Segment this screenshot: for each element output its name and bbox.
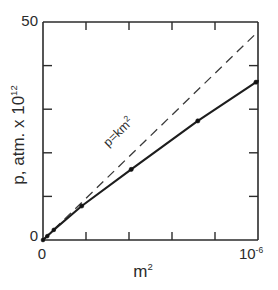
x-axis-origin-label: 0: [38, 245, 46, 262]
series-ideal-dashed: [43, 32, 258, 240]
x-axis-ticks: [86, 232, 215, 240]
ideal-law-annotation: p=km2: [99, 113, 136, 149]
axis-frame: [43, 22, 258, 240]
x-axis-max-label: 10-6: [239, 245, 264, 262]
data-point: [41, 238, 45, 242]
x-axis-max-label-base: 10: [239, 245, 256, 262]
y-axis-ticks: [43, 66, 52, 197]
data-point-markers: [41, 80, 258, 242]
x-axis-title: m2: [133, 261, 152, 281]
x-axis-title-base: m: [133, 262, 147, 281]
y-axis-title-exponent: 12: [8, 85, 19, 96]
data-point: [129, 167, 133, 171]
data-point: [52, 228, 56, 232]
y-axis-max-label: 50: [21, 12, 38, 29]
data-point: [254, 80, 258, 84]
y-axis-title-base: p, atm. x 10: [9, 96, 28, 185]
plot-canvas: 50 0 0 10-6 m2 p, atm. x 1012 p=km2: [0, 0, 278, 290]
data-point: [80, 204, 84, 208]
chart-figure: 50 0 0 10-6 m2 p, atm. x 1012 p=km2: [0, 0, 278, 290]
top-axis-ticks: [86, 22, 215, 30]
x-axis-max-label-exponent: -6: [256, 245, 264, 255]
series-measured-solid: [43, 81, 258, 240]
data-point: [45, 234, 49, 238]
y-axis-title: p, atm. x 1012: [8, 85, 28, 184]
x-axis-title-exponent: 2: [147, 261, 152, 272]
data-point: [196, 119, 200, 123]
y-axis-origin-label: 0: [30, 227, 38, 244]
